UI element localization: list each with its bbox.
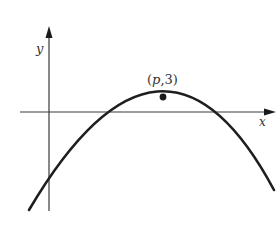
x-axis-arrow-icon	[264, 109, 276, 116]
y-axis-label: y	[35, 41, 44, 56]
y-axis-arrow-icon	[46, 26, 53, 38]
parabola-diagram: y x (p,3)	[0, 0, 280, 233]
vertex-label-close: )	[173, 72, 178, 87]
y-axis: y	[35, 26, 53, 211]
parabola-curve	[29, 91, 274, 210]
vertex-point	[160, 94, 167, 101]
x-axis-label: x	[259, 115, 266, 129]
x-axis: x	[20, 109, 276, 130]
vertex-label: (p,3)	[147, 72, 178, 87]
vertex-label-value: 3	[165, 72, 173, 87]
